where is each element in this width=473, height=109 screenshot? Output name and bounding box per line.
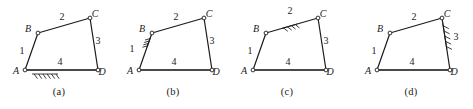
vertex-label-A: A [126,65,134,76]
pin-joint-B [264,31,268,35]
link-number-2: 2 [412,11,417,22]
vertex-label-B: B [139,23,145,34]
vertex-label-D: D [211,66,220,77]
panel-caption: (a) [0,86,118,97]
linkage-diagram: ABCD1234 [228,0,346,88]
link-1-AB [25,33,38,70]
vertex-label-A: A [240,65,248,76]
vertex-label-A: A [364,65,372,76]
vertex-label-B: B [25,23,31,34]
link-1-AB [253,33,266,70]
vertex-label-C: C [320,8,327,19]
link-number-1: 1 [130,43,135,54]
link-number-4: 4 [58,56,63,67]
vertex-label-C: C [444,8,451,19]
vertex-label-B: B [253,23,259,34]
link-number-1: 1 [372,45,377,56]
linkage-diagram: ABCD1234 [114,0,232,88]
link-number-3: 3 [454,31,459,42]
vertex-label-D: D [97,66,106,77]
vertex-label-C: C [92,8,99,19]
ground-hatch-link-3 [443,23,452,49]
pin-joint-A [251,68,255,72]
vertex-label-D: D [325,66,334,77]
link-number-4: 4 [286,56,291,67]
linkage-panel-b: ABCD1234(b) [114,0,232,109]
panel-caption: (d) [352,86,470,97]
ground-hatch-link-4 [32,74,59,79]
pin-joint-B [150,31,154,35]
pin-joint-B [388,31,392,35]
pin-joint-A [137,68,141,72]
ground-hatch-link-2 [282,24,300,31]
link-number-1: 1 [20,45,25,56]
pin-joint-A [375,68,379,72]
pin-joint-A [23,68,27,72]
link-number-2: 2 [60,11,65,22]
panel-caption: (c) [228,86,346,97]
link-number-4: 4 [172,56,177,67]
link-number-4: 4 [410,56,415,67]
linkage-panel-a: ABCD1234(a) [0,0,118,109]
link-1-AB [377,33,390,70]
link-number-1: 1 [248,45,253,56]
linkage-diagram: ABCD1234 [0,0,118,88]
vertex-label-C: C [206,8,213,19]
vertex-label-A: A [12,65,20,76]
vertex-label-D: D [449,66,458,77]
four-bar-linkage-figure: ABCD1234(a)ABCD1234(b)ABCD1234(c)ABCD123… [0,0,473,109]
pin-joint-B [36,31,40,35]
vertex-label-B: B [377,23,383,34]
link-number-3: 3 [324,35,329,46]
linkage-diagram: ABCD1234 [352,0,470,88]
link-number-2: 2 [288,5,293,16]
link-number-3: 3 [210,35,215,46]
link-number-3: 3 [96,35,101,46]
linkage-panel-d: ABCD1234(d) [352,0,470,109]
panel-caption: (b) [114,86,232,97]
link-number-2: 2 [174,11,179,22]
linkage-panel-c: ABCD1234(c) [228,0,346,109]
